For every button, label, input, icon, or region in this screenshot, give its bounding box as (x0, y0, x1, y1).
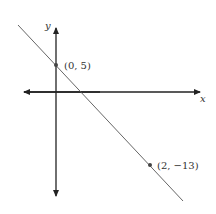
point1-label: (0, 5) (64, 60, 91, 71)
graph-line (18, 25, 183, 201)
coordinate-plane: y x (0, 5) (2, −13) (0, 0, 216, 214)
point2-label: (2, −13) (157, 160, 199, 171)
point-2-neg13 (148, 163, 152, 167)
x-axis-label: x (200, 93, 206, 104)
y-axis-label: y (44, 20, 51, 31)
point-0-5 (54, 63, 58, 67)
